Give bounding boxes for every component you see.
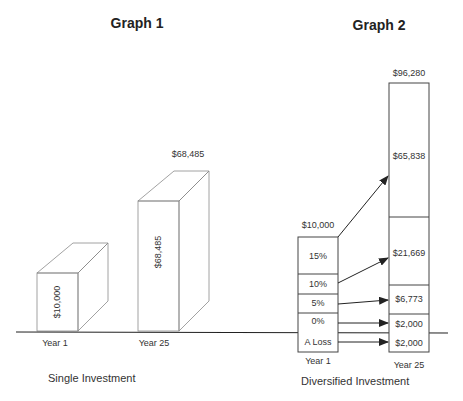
arrow-5-icon — [338, 300, 388, 304]
graph2-left-seg-5: 5% — [311, 298, 324, 308]
graph2-right-total: $96,280 — [393, 68, 426, 78]
graph2-caption: Diversified Investment — [301, 375, 409, 387]
graph1-xlabel-year25: Year 25 — [139, 338, 170, 348]
graph2-bar-year1: 15% 10% 5% 0% A Loss — [298, 237, 338, 352]
graph2-xlabel-year1: Year 1 — [305, 356, 331, 366]
graph2-left-seg-0: 0% — [311, 316, 324, 326]
graph2-right-seg-2: $21,669 — [393, 248, 426, 258]
graph2-left-seg-10: 10% — [309, 279, 327, 289]
graph2-right-seg-4: $2,000 — [395, 319, 423, 329]
graph2-right-seg-5: $2,000 — [395, 338, 423, 348]
graph1-bar2-value: $68,485 — [153, 236, 163, 269]
graph1-bar-year25: $68,485 — [138, 171, 209, 331]
graph2-bar-year25: $65,838 $21,669 $6,773 $2,000 $2,000 — [389, 83, 429, 352]
arrow-10-icon — [338, 258, 388, 283]
comparison-chart: Graph 1 $10,000 $68,485 $68,485 Year 1 Y… — [0, 0, 463, 401]
graph2-arrows — [338, 176, 388, 342]
graph1-title: Graph 1 — [111, 15, 164, 31]
arrow-15-icon — [338, 176, 388, 237]
baseline — [16, 332, 448, 333]
graph2-left-seg-15: 15% — [309, 251, 327, 261]
graph1-bar1-value: $10,000 — [52, 286, 62, 319]
graph1-bar2-top-label: $68,485 — [172, 149, 205, 159]
graph2-right-seg-3: $6,773 — [395, 294, 423, 304]
graph2-title: Graph 2 — [353, 17, 406, 33]
graph2-xlabel-year25: Year 25 — [394, 360, 425, 370]
graph2-right-seg-1: $65,838 — [393, 151, 426, 161]
graph2-left-seg-loss: A Loss — [304, 337, 332, 347]
graph2-left-total: $10,000 — [302, 220, 335, 230]
graph1-xlabel-year1: Year 1 — [42, 338, 68, 348]
graph1-bar-year1: $10,000 — [37, 243, 108, 331]
graph1-caption: Single Investment — [48, 372, 135, 384]
